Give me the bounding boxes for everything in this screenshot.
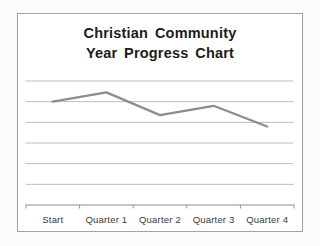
x-axis-label-quarter-4: Quarter 4 — [240, 214, 294, 226]
chart-screenshot: Christian Community Year Progress Chart … — [0, 0, 320, 246]
x-axis-label-quarter-1: Quarter 1 — [80, 214, 134, 226]
line-chart-plot — [0, 0, 320, 246]
x-axis-label-start: Start — [26, 214, 80, 226]
x-axis-label-quarter-2: Quarter 2 — [133, 214, 187, 226]
progress-line — [53, 92, 267, 126]
x-axis-label-quarter-3: Quarter 3 — [187, 214, 241, 226]
